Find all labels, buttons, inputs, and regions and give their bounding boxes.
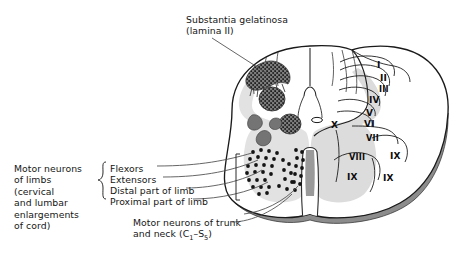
label-flexors: Flexors <box>110 163 143 174</box>
lamina-label-ix-9: IX <box>347 172 358 182</box>
lamina-label-v-4: V <box>366 108 373 118</box>
label-proximal-part-of-limb: Proximal part of limb <box>110 196 208 207</box>
label-trunk-mid: –S <box>193 228 204 239</box>
lateral-horn-nucleus <box>269 118 281 130</box>
nucleus-proprius <box>259 87 285 111</box>
lamina-label-vii-6: VII <box>366 133 379 143</box>
dorsal-nucleus-clarke <box>279 114 301 134</box>
lamina-label-x-11: X <box>331 120 338 130</box>
figure-page: Substantia gelatinosa (lamina II) Motor … <box>0 0 465 256</box>
label-substantia-gelatinosa-line1: Substantia gelatinosa <box>186 14 288 25</box>
label-motor-neurons-of-limbs: Motor neurons of limbs (cervical and lum… <box>14 163 82 231</box>
label-trunk-line1: Motor neurons of trunk <box>133 217 241 228</box>
lamina-label-ii-1: II <box>380 73 387 83</box>
lamina-label-iv-3: IV <box>369 95 380 105</box>
label-extensors: Extensors <box>110 174 156 185</box>
label-substantia-gelatinosa: Substantia gelatinosa (lamina II) <box>186 14 288 37</box>
label-trunk-suffix: ) <box>208 228 212 239</box>
central-canal <box>312 117 323 122</box>
lamina-label-ix-8: IX <box>390 151 401 161</box>
ventral-fissure-core <box>305 150 315 196</box>
bracket-limb-groups <box>98 162 106 199</box>
label-substantia-gelatinosa-line2: (lamina II) <box>186 25 234 36</box>
lamina-label-i-0: I <box>377 60 381 70</box>
lamina-label-iii-2: III <box>379 84 389 94</box>
label-distal-part-of-limb: Distal part of limb <box>110 185 194 196</box>
leader-substantia-gelatinosa <box>212 38 268 74</box>
label-motor-neurons-of-trunk: Motor neurons of trunk and neck (C1–S5) <box>133 217 241 242</box>
lamina-label-ix-10: IX <box>383 173 394 183</box>
lamina-label-vi-5: VI <box>364 119 375 129</box>
lamina-label-viii-7: VIII <box>349 152 365 162</box>
label-trunk-line2: and neck (C1–S5) <box>133 228 212 239</box>
label-trunk-prefix: and neck (C <box>133 228 189 239</box>
